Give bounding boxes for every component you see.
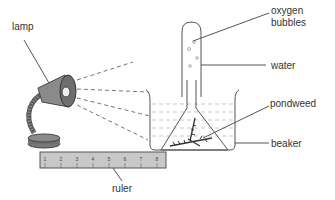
oxygen-bubbles-icon <box>188 41 199 68</box>
label-pondweed: pondweed <box>270 98 316 109</box>
svg-text:8: 8 <box>156 156 159 162</box>
svg-text:6: 6 <box>124 156 127 162</box>
ruler-leader <box>113 168 122 181</box>
lamp-icon <box>28 75 76 148</box>
pondweed-icon <box>170 118 212 146</box>
label-water: water <box>271 60 295 71</box>
light-rays <box>77 62 150 140</box>
label-lamp: lamp <box>12 21 34 32</box>
svg-text:5: 5 <box>108 156 111 162</box>
label-oxygen: oxygen <box>271 5 303 16</box>
svg-text:2: 2 <box>60 156 63 162</box>
svg-text:4: 4 <box>92 156 95 162</box>
label-bubbles: bubbles <box>271 17 306 28</box>
label-ruler: ruler <box>112 183 132 194</box>
label-leaders <box>193 13 269 143</box>
label-beaker: beaker <box>271 138 302 149</box>
svg-text:1: 1 <box>44 156 47 162</box>
svg-text:3: 3 <box>76 156 79 162</box>
svg-text:7: 7 <box>140 156 143 162</box>
lamp-leader <box>24 40 49 83</box>
